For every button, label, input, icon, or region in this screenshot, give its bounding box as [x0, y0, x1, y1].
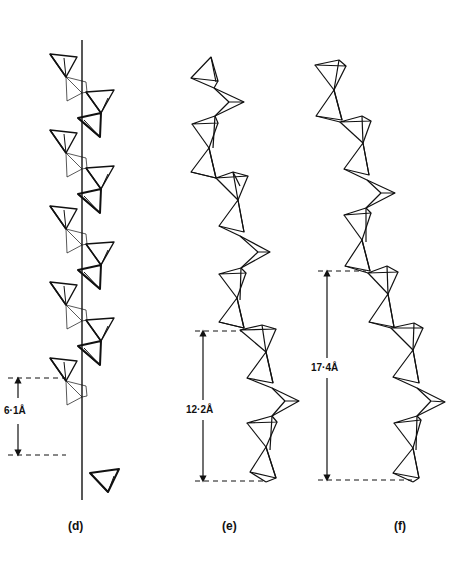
chain-d: [8, 40, 119, 500]
panel-label-d: (d): [68, 519, 83, 533]
panel-label-e: (e): [222, 519, 237, 533]
tetrahedral-chains-diagram: [0, 0, 473, 564]
repeat-label-e: 12·2Å: [186, 403, 213, 417]
panel-label-f: (f): [394, 519, 406, 533]
chain-f: [315, 60, 445, 482]
repeat-label-f: 17·4Å: [311, 361, 338, 375]
chain-e: [191, 57, 299, 482]
repeat-label-d: 6·1Å: [4, 404, 26, 418]
